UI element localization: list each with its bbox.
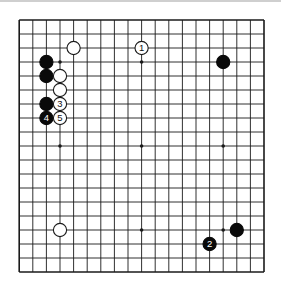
white-stone-disc [53, 69, 66, 82]
white-stone [53, 69, 66, 82]
white-stone-disc [53, 83, 66, 96]
black-stone [217, 55, 230, 68]
white-stone-disc [67, 41, 80, 54]
star-point [58, 60, 62, 64]
black-stone-disc [217, 55, 230, 68]
black-stone-disc [40, 97, 53, 110]
white-stone [67, 41, 80, 54]
black-stone-disc [40, 55, 53, 68]
star-point [221, 144, 225, 148]
star-point [221, 228, 225, 232]
move-number-label: 1 [139, 42, 144, 53]
white-stone [53, 223, 66, 236]
star-point [140, 60, 144, 64]
move-number-label: 4 [44, 112, 49, 123]
star-point [58, 144, 62, 148]
black-stone-2: 2 [203, 237, 216, 250]
move-number-label: 3 [57, 98, 62, 109]
black-stone [40, 55, 53, 68]
white-stone-5: 5 [53, 111, 66, 124]
white-stone-3: 3 [53, 97, 66, 110]
black-stone [230, 223, 243, 236]
black-stone-disc [230, 223, 243, 236]
black-stone-disc [40, 69, 53, 82]
white-stone-1: 1 [135, 41, 148, 54]
star-point [140, 228, 144, 232]
black-stone [40, 97, 53, 110]
black-stone-4: 4 [40, 111, 53, 124]
white-stone [53, 83, 66, 96]
star-point [140, 144, 144, 148]
move-number-label: 5 [57, 112, 62, 123]
move-number-label: 2 [207, 238, 212, 249]
white-stone-disc [53, 223, 66, 236]
go-board: 13452 [0, 0, 281, 288]
black-stone [40, 69, 53, 82]
